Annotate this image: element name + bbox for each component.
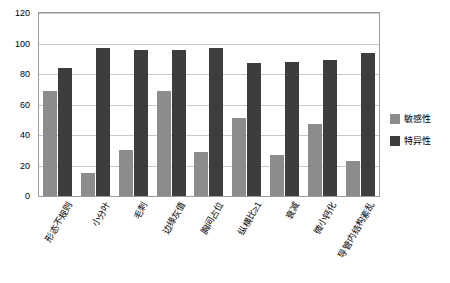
bar-group xyxy=(190,13,228,196)
bar-specificity xyxy=(285,62,299,196)
legend-item: 敏感性 xyxy=(390,112,450,125)
bar-group xyxy=(115,13,153,196)
bar-group xyxy=(266,13,304,196)
bar-specificity xyxy=(96,48,110,196)
y-axis-tick-label: 120 xyxy=(15,8,30,18)
bar-specificity xyxy=(58,68,72,196)
bar-group xyxy=(303,13,341,196)
bar-group xyxy=(152,13,190,196)
y-axis-tick-label: 80 xyxy=(20,69,30,79)
bar-specificity xyxy=(323,60,337,196)
bar-chart: 020406080100120 形态不规则小分叶毛刺边缘灰值胸间占位纵横比≥1衰… xyxy=(0,0,450,283)
y-axis-tick-label: 20 xyxy=(20,161,30,171)
bar-group xyxy=(39,13,77,196)
y-axis-tick-label: 40 xyxy=(20,130,30,140)
bar-specificity xyxy=(247,63,261,196)
x-axis-label: 导管内结构紊乱 xyxy=(335,199,378,260)
y-axis: 020406080100120 xyxy=(0,12,34,197)
bar-sensitivity xyxy=(232,118,246,196)
x-axis-label: 衰减 xyxy=(282,199,302,221)
bar-group xyxy=(228,13,266,196)
bar-sensitivity xyxy=(43,91,57,196)
legend-item: 特异性 xyxy=(390,134,450,147)
bar-sensitivity xyxy=(157,91,171,196)
x-axis-label: 毛刺 xyxy=(130,199,150,221)
x-axis-label: 纵横比≥1 xyxy=(234,199,264,238)
bar-sensitivity xyxy=(81,173,95,196)
x-axis-label: 微小钙化 xyxy=(310,199,339,237)
x-axis-category-labels: 形态不规则小分叶毛刺边缘灰值胸间占位纵横比≥1衰减微小钙化导管内结构紊乱 xyxy=(39,199,379,283)
x-axis-label: 形态不规则 xyxy=(41,199,75,244)
bar-sensitivity xyxy=(194,152,208,196)
x-axis-label: 小分叶 xyxy=(88,199,113,229)
bar-sensitivity xyxy=(119,150,133,196)
bar-specificity xyxy=(361,53,375,196)
bar-group xyxy=(341,13,379,196)
y-axis-tick-label: 0 xyxy=(25,191,30,201)
bar-specificity xyxy=(209,48,223,196)
bars-layer xyxy=(39,13,379,196)
legend-color-swatch xyxy=(390,114,400,124)
x-axis-label: 胸间占位 xyxy=(197,199,226,237)
legend-label: 特异性 xyxy=(404,134,431,147)
bar-group xyxy=(77,13,115,196)
bar-sensitivity xyxy=(270,155,284,196)
bar-specificity xyxy=(134,50,148,196)
bar-sensitivity xyxy=(308,124,322,196)
y-axis-tick-label: 60 xyxy=(20,100,30,110)
x-axis-label: 边缘灰值 xyxy=(159,199,188,237)
chart-legend: 敏感性特异性 xyxy=(390,112,450,156)
legend-color-swatch xyxy=(390,136,400,146)
bar-sensitivity xyxy=(346,161,360,196)
y-axis-tick-label: 100 xyxy=(15,39,30,49)
bar-specificity xyxy=(172,50,186,196)
legend-label: 敏感性 xyxy=(404,112,431,125)
